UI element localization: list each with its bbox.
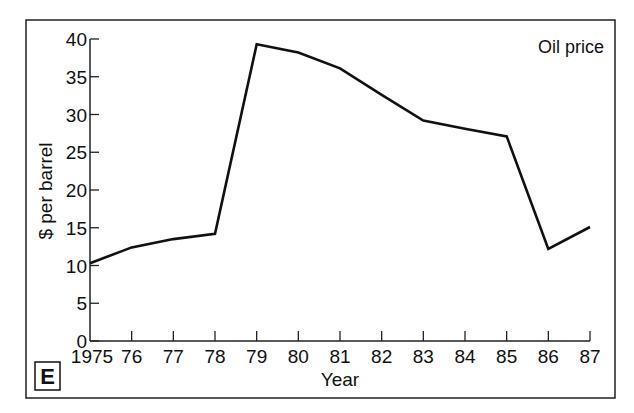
x-tick-label: 82 (371, 346, 392, 367)
x-tick-label: 76 (121, 346, 142, 367)
y-axis: 0510152025303540 (66, 29, 99, 352)
y-tick-label: 10 (66, 256, 87, 277)
series-annotation: Oil price (538, 37, 604, 57)
x-tick-label: 87 (579, 346, 600, 367)
x-tick-label: 85 (496, 346, 517, 367)
x-tick-label: 84 (454, 346, 476, 367)
y-axis-title: $ per barrel (35, 142, 56, 239)
x-axis-title: Year (321, 369, 360, 390)
y-tick-label: 30 (66, 105, 87, 126)
oil-price-line (90, 44, 590, 263)
y-tick-label: 20 (66, 180, 87, 201)
oil-price-chart: 0510152025303540 19757677787980818283848… (0, 0, 634, 413)
x-axis: 1975767778798081828384858687 (71, 331, 601, 367)
y-tick-label: 25 (66, 142, 87, 163)
x-tick-label: 1975 (71, 346, 113, 367)
x-tick-label: 81 (329, 346, 350, 367)
y-tick-label: 15 (66, 218, 87, 239)
x-tick-label: 80 (288, 346, 309, 367)
y-tick-label: 40 (66, 29, 87, 50)
y-tick-label: 5 (76, 293, 87, 314)
x-tick-label: 83 (413, 346, 434, 367)
x-tick-label: 77 (163, 346, 184, 367)
x-tick-label: 86 (538, 346, 559, 367)
panel-label: E (40, 364, 55, 389)
panel-label-box: E (35, 362, 60, 390)
x-tick-label: 78 (204, 346, 225, 367)
x-tick-label: 79 (246, 346, 267, 367)
y-tick-label: 35 (66, 67, 87, 88)
